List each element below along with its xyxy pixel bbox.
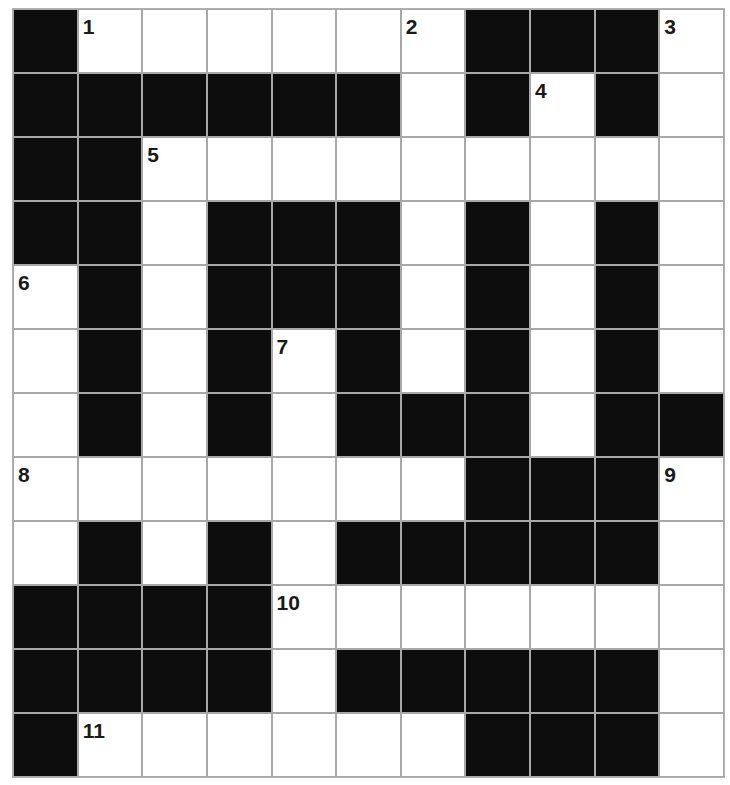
answer-cell[interactable]	[402, 458, 465, 520]
block-cell	[531, 522, 594, 584]
block-cell	[596, 394, 659, 456]
answer-cell[interactable]: 4	[531, 74, 594, 136]
answer-cell[interactable]	[660, 650, 723, 712]
answer-cell[interactable]	[208, 458, 271, 520]
answer-cell[interactable]: 7	[273, 330, 336, 392]
answer-cell[interactable]: 2	[402, 10, 465, 72]
block-cell	[596, 202, 659, 264]
answer-cell[interactable]	[660, 714, 723, 776]
answer-cell[interactable]: 1	[79, 10, 142, 72]
answer-cell[interactable]: 10	[273, 586, 336, 648]
answer-cell[interactable]	[143, 266, 206, 328]
answer-cell[interactable]	[531, 266, 594, 328]
answer-cell[interactable]	[531, 202, 594, 264]
answer-cell[interactable]	[273, 650, 336, 712]
answer-cell[interactable]	[273, 522, 336, 584]
answer-cell[interactable]	[660, 202, 723, 264]
answer-cell[interactable]	[208, 714, 271, 776]
answer-cell[interactable]	[466, 586, 529, 648]
answer-cell[interactable]	[402, 330, 465, 392]
block-cell	[143, 586, 206, 648]
answer-cell[interactable]	[660, 586, 723, 648]
answer-cell[interactable]: 5	[143, 138, 206, 200]
answer-cell[interactable]	[402, 138, 465, 200]
answer-cell[interactable]	[337, 714, 400, 776]
answer-cell[interactable]: 3	[660, 10, 723, 72]
answer-cell[interactable]	[660, 138, 723, 200]
answer-cell[interactable]: 11	[79, 714, 142, 776]
answer-cell[interactable]	[596, 586, 659, 648]
block-cell	[596, 266, 659, 328]
answer-cell[interactable]	[660, 74, 723, 136]
block-cell	[596, 458, 659, 520]
crossword-grid: 1234567891011	[12, 8, 725, 778]
block-cell	[79, 202, 142, 264]
block-cell	[208, 266, 271, 328]
answer-cell[interactable]	[337, 10, 400, 72]
answer-cell[interactable]	[143, 202, 206, 264]
block-cell	[402, 394, 465, 456]
answer-cell[interactable]	[208, 138, 271, 200]
answer-cell[interactable]	[402, 714, 465, 776]
answer-cell[interactable]	[208, 10, 271, 72]
answer-cell[interactable]: 6	[14, 266, 77, 328]
answer-cell[interactable]	[660, 522, 723, 584]
block-cell	[208, 394, 271, 456]
answer-cell[interactable]	[273, 138, 336, 200]
block-cell	[208, 330, 271, 392]
block-cell	[596, 522, 659, 584]
block-cell	[466, 394, 529, 456]
block-cell	[466, 458, 529, 520]
block-cell	[14, 650, 77, 712]
answer-cell[interactable]: 9	[660, 458, 723, 520]
block-cell	[143, 74, 206, 136]
answer-cell[interactable]	[660, 330, 723, 392]
answer-cell[interactable]	[402, 586, 465, 648]
answer-cell[interactable]	[531, 394, 594, 456]
block-cell	[596, 650, 659, 712]
answer-cell[interactable]	[337, 458, 400, 520]
block-cell	[79, 266, 142, 328]
answer-cell[interactable]	[273, 458, 336, 520]
block-cell	[531, 714, 594, 776]
block-cell	[79, 586, 142, 648]
answer-cell[interactable]	[14, 330, 77, 392]
clue-number: 3	[664, 16, 676, 37]
clue-number: 2	[406, 16, 418, 37]
answer-cell[interactable]	[143, 458, 206, 520]
answer-cell[interactable]	[143, 714, 206, 776]
answer-cell[interactable]	[273, 394, 336, 456]
answer-cell[interactable]	[531, 138, 594, 200]
block-cell	[402, 522, 465, 584]
block-cell	[208, 74, 271, 136]
block-cell	[79, 394, 142, 456]
answer-cell[interactable]	[402, 266, 465, 328]
answer-cell[interactable]	[337, 138, 400, 200]
answer-cell[interactable]	[660, 266, 723, 328]
answer-cell[interactable]	[402, 74, 465, 136]
answer-cell[interactable]	[273, 10, 336, 72]
answer-cell[interactable]	[466, 138, 529, 200]
block-cell	[273, 266, 336, 328]
block-cell	[14, 74, 77, 136]
answer-cell[interactable]	[596, 138, 659, 200]
answer-cell[interactable]	[143, 522, 206, 584]
answer-cell[interactable]	[14, 522, 77, 584]
answer-cell[interactable]	[143, 10, 206, 72]
answer-cell[interactable]	[14, 394, 77, 456]
answer-cell[interactable]	[337, 586, 400, 648]
answer-cell[interactable]	[402, 202, 465, 264]
clue-number: 7	[277, 336, 289, 357]
clue-number: 8	[18, 464, 30, 485]
answer-cell[interactable]	[531, 586, 594, 648]
answer-cell[interactable]: 8	[14, 458, 77, 520]
answer-cell[interactable]	[79, 458, 142, 520]
answer-cell[interactable]	[531, 330, 594, 392]
block-cell	[14, 586, 77, 648]
block-cell	[79, 522, 142, 584]
answer-cell[interactable]	[143, 330, 206, 392]
answer-cell[interactable]	[143, 394, 206, 456]
block-cell	[660, 394, 723, 456]
answer-cell[interactable]	[273, 714, 336, 776]
block-cell	[596, 74, 659, 136]
